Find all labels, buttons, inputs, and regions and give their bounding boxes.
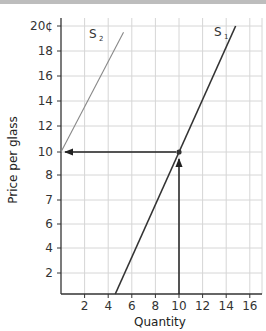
equilibrium-point [176, 149, 181, 154]
x-tick-label: 2 [81, 299, 89, 313]
supply-curves: S1S2 [61, 25, 236, 294]
x-tick-label: 4 [104, 299, 112, 313]
y-tick-label: 6 [45, 217, 53, 231]
y-tick-label: 7 [45, 193, 53, 207]
y-tick-label: 2 [45, 266, 53, 280]
y-tick-label: 4 [45, 241, 53, 255]
x-tick-label: 6 [128, 299, 136, 313]
y-axis-title: Price per glass [6, 116, 20, 204]
y-tick-label: 14 [38, 94, 53, 108]
x-axis-ticks: 246810121416 [81, 294, 258, 313]
curve-label-s1: S [214, 25, 222, 39]
y-tick-label: 10 [38, 145, 53, 159]
curve-label-subscript: 2 [99, 35, 103, 43]
curve-label-s2: S [89, 27, 97, 41]
y-axis-ticks: 24678101214161820¢ [30, 19, 61, 280]
x-tick-label: 14 [219, 299, 234, 313]
y-tick-label: 8 [45, 168, 53, 182]
grid-lines [61, 18, 262, 294]
supply-chart: 246810121416 24678101214161820¢ S1S2 Qua… [0, 0, 266, 331]
y-tick-label: 12 [38, 119, 53, 133]
y-tick-label: 16 [38, 69, 53, 83]
supply-curve-s1 [115, 26, 235, 294]
supply-curve-s2 [61, 32, 124, 152]
x-tick-label: 16 [242, 299, 257, 313]
curve-label-subscript: 1 [224, 33, 228, 41]
y-tick-label: 18 [38, 44, 53, 58]
axes [61, 18, 262, 294]
y-tick-label: 20¢ [30, 19, 53, 33]
x-tick-label: 8 [152, 299, 160, 313]
annotations [65, 149, 182, 294]
x-tick-label: 12 [195, 299, 210, 313]
x-axis-title: Quantity [134, 315, 186, 329]
x-tick-label: 10 [171, 299, 186, 313]
